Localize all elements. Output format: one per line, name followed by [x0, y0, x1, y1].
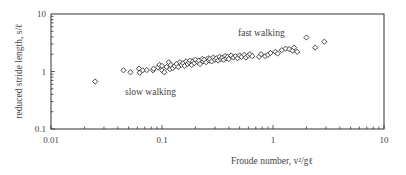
axis-labels: 0.010.11100.1110	[35, 9, 389, 145]
x-tick-label: 0.01	[43, 135, 59, 145]
data-point-diamond	[313, 45, 318, 50]
annotation-fast-walking: fast walking	[238, 28, 285, 38]
data-point-diamond	[93, 79, 98, 84]
y-tick-label: 0.1	[35, 124, 46, 134]
data-point-diamond	[121, 68, 126, 73]
data-points	[93, 35, 327, 84]
data-point-diamond	[322, 39, 327, 44]
annotation-slow-walking: slow walking	[125, 87, 176, 97]
x-tick-label: 10	[380, 135, 390, 145]
data-point-diamond	[304, 35, 309, 40]
data-point-diamond	[144, 67, 149, 72]
plot-frame	[51, 14, 384, 129]
x-axis-title: Froude number, v²/gℓ	[231, 156, 313, 166]
x-tick-label: 1	[271, 135, 276, 145]
x-axis-ticks	[51, 125, 384, 129]
y-axis-ticks	[51, 17, 55, 129]
data-point-diamond	[128, 70, 133, 75]
y-tick-label: 10	[37, 9, 47, 19]
data-point-diamond	[295, 49, 300, 54]
y-axis-title: reduced stride length, s/ℓ	[14, 23, 24, 118]
x-tick-label: 0.1	[156, 135, 167, 145]
scatter-chart: 0.010.11100.1110 reduced stride length, …	[0, 0, 406, 175]
y-tick-label: 1	[42, 67, 47, 77]
